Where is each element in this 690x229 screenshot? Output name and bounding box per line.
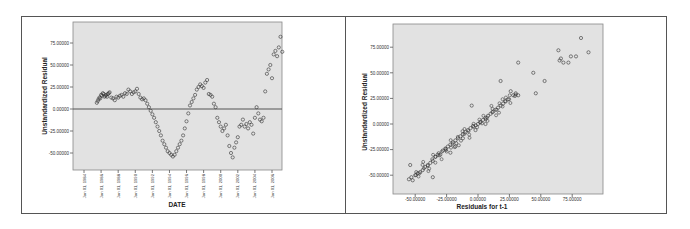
left-x-tick-label: Jan 01, 1992 bbox=[150, 173, 155, 198]
left-x-axis-label: DATE bbox=[168, 201, 186, 208]
left-x-tick-label: Jan 01, 1984 bbox=[82, 173, 87, 198]
right-x-tick-label: -25.00000 bbox=[436, 197, 457, 202]
left-x-tick-label: Jan 01, 1998 bbox=[201, 173, 206, 198]
left-x-tick-label: Jan 01, 2006 bbox=[270, 173, 275, 198]
figure-canvas: 75.0000050.0000025.000000.00000-25.00000… bbox=[0, 0, 690, 229]
right-x-tick-label: 25.00000 bbox=[500, 197, 519, 202]
residual-lag-scatter-chart: 75.0000050.0000025.000000.00000-25.00000… bbox=[361, 24, 603, 210]
right-y-tick-label: -25.00000 bbox=[369, 147, 390, 152]
right-x-tick-label: 75.00000 bbox=[563, 197, 582, 202]
right-y-tick-label: 25.00000 bbox=[370, 96, 389, 101]
left-plot-area bbox=[73, 22, 282, 170]
left-x-tick-label: Jan 01, 1986 bbox=[99, 173, 104, 198]
right-x-tick-label: -50.00000 bbox=[405, 197, 426, 202]
left-x-tick-label: Jan 01, 1996 bbox=[184, 173, 189, 198]
left-y-tick-label: 25.00000 bbox=[50, 85, 69, 90]
left-y-tick-label: 75.00000 bbox=[50, 41, 69, 46]
left-x-tick-label: Jan 01, 1990 bbox=[133, 173, 138, 198]
left-y-tick-label: 50.00000 bbox=[50, 63, 69, 68]
right-y-tick-label: -50.00000 bbox=[369, 173, 390, 178]
right-y-tick-label: 75.00000 bbox=[370, 45, 389, 50]
right-x-tick-label: 0.00000 bbox=[470, 197, 487, 202]
right-y-axis-label: Unstandardized Residual bbox=[361, 73, 368, 151]
left-x-tick-label: Jan 01, 1994 bbox=[167, 173, 172, 198]
left-x-tick-label: Jan 01, 2002 bbox=[235, 173, 240, 198]
right-y-tick-label: 50.00000 bbox=[370, 71, 389, 76]
left-y-tick-label: -50.00000 bbox=[49, 151, 70, 156]
left-x-tick-label: Jan 01, 2000 bbox=[218, 173, 223, 198]
right-y-tick-label: 0.00000 bbox=[373, 122, 390, 127]
left-y-tick-label: -25.00000 bbox=[49, 129, 70, 134]
left-x-tick-label: Jan 01, 1988 bbox=[116, 173, 121, 198]
left-y-axis-label: Unstandardized Residual bbox=[41, 57, 48, 135]
right-x-tick-label: 50.00000 bbox=[531, 197, 550, 202]
right-x-axis-label: Residuals for t-1 bbox=[457, 203, 508, 210]
left-x-tick-label: Jan 01, 2004 bbox=[252, 173, 257, 198]
left-y-tick-label: 0.00000 bbox=[53, 107, 70, 112]
